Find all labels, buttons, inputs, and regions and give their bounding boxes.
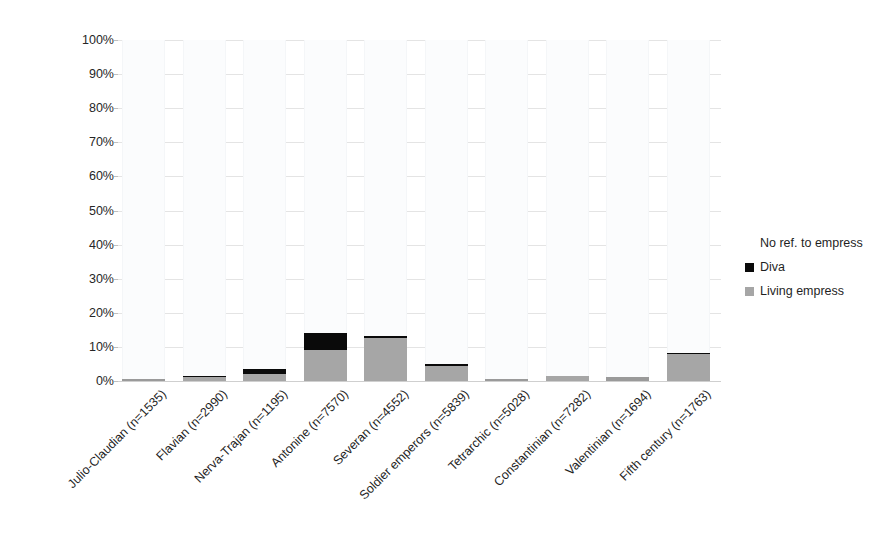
bar-segment[interactable] bbox=[485, 40, 528, 379]
bar-segment[interactable] bbox=[122, 379, 165, 381]
bar-segment[interactable] bbox=[425, 366, 468, 381]
y-axis-tick-label: 90% bbox=[66, 68, 114, 81]
y-axis-tick-label: 20% bbox=[66, 307, 114, 320]
bar-segment[interactable] bbox=[243, 40, 286, 369]
bar-segment[interactable] bbox=[243, 374, 286, 382]
x-axis-tick-label: Julio-Claudian (n=1535) bbox=[65, 387, 169, 491]
bar-segment[interactable] bbox=[364, 338, 407, 381]
bar-segment[interactable] bbox=[304, 333, 347, 350]
legend-item-no-ref[interactable]: No ref. to empress bbox=[745, 231, 885, 255]
bar-segment[interactable] bbox=[546, 40, 589, 376]
y-axis-tick-label: 0% bbox=[66, 375, 114, 388]
chart-legend: No ref. to empressDivaLiving empress bbox=[745, 231, 885, 303]
bar-group[interactable] bbox=[667, 40, 710, 381]
bar-segment[interactable] bbox=[243, 369, 286, 374]
bar-group[interactable] bbox=[243, 40, 286, 381]
bar-segment[interactable] bbox=[485, 379, 528, 381]
legend-swatch-icon bbox=[745, 287, 754, 296]
stacked-bar-chart: 100%90%80%70%60%50%40%30%20%10%0% Julio-… bbox=[0, 0, 886, 551]
y-axis-tick-label: 60% bbox=[66, 170, 114, 183]
bar-segment[interactable] bbox=[364, 40, 407, 336]
bar-segment[interactable] bbox=[606, 377, 649, 381]
legend-label: Living empress bbox=[760, 285, 844, 298]
y-axis-tick-label: 40% bbox=[66, 239, 114, 252]
bar-group[interactable] bbox=[546, 40, 589, 381]
y-axis-tick-label: 70% bbox=[66, 136, 114, 149]
legend-label: No ref. to empress bbox=[760, 237, 863, 250]
bar-segment[interactable] bbox=[364, 336, 407, 338]
legend-label: Diva bbox=[760, 261, 785, 274]
y-axis-tick-label: 30% bbox=[66, 273, 114, 286]
x-axis-tick-label: Soldier emperors (n=5839) bbox=[357, 387, 472, 502]
y-axis-tick-label: 10% bbox=[66, 341, 114, 354]
bar-segment[interactable] bbox=[425, 40, 468, 364]
bar-segment[interactable] bbox=[304, 350, 347, 381]
bar-segment[interactable] bbox=[667, 354, 710, 381]
bar-segment[interactable] bbox=[183, 40, 226, 376]
legend-item-living-empress[interactable]: Living empress bbox=[745, 279, 885, 303]
axis-baseline bbox=[118, 381, 721, 382]
bar-group[interactable] bbox=[183, 40, 226, 381]
bar-group[interactable] bbox=[304, 40, 347, 381]
bar-segment[interactable] bbox=[304, 40, 347, 333]
bar-segment[interactable] bbox=[183, 377, 226, 381]
y-axis-tick-label: 80% bbox=[66, 102, 114, 115]
bar-group[interactable] bbox=[122, 40, 165, 381]
bar-group[interactable] bbox=[606, 40, 649, 381]
bar-group[interactable] bbox=[364, 40, 407, 381]
y-axis: 100%90%80%70%60%50%40%30%20%10%0% bbox=[58, 40, 114, 381]
bar-segment[interactable] bbox=[546, 376, 589, 381]
y-axis-tick-label: 100% bbox=[66, 34, 114, 47]
bar-group[interactable] bbox=[425, 40, 468, 381]
bar-group[interactable] bbox=[485, 40, 528, 381]
plot-area bbox=[118, 40, 721, 381]
legend-item-diva[interactable]: Diva bbox=[745, 255, 885, 279]
legend-swatch-icon bbox=[745, 239, 754, 248]
bar-segment[interactable] bbox=[667, 40, 710, 353]
bar-segment[interactable] bbox=[122, 40, 165, 379]
bar-segment[interactable] bbox=[606, 40, 649, 377]
bar-segment[interactable] bbox=[425, 364, 468, 366]
y-axis-tick-label: 50% bbox=[66, 205, 114, 218]
legend-swatch-icon bbox=[745, 263, 754, 272]
